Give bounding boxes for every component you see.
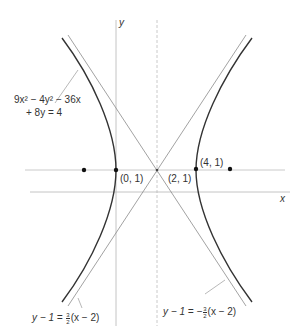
y-axis-label: y [119, 18, 124, 28]
equation-line-2: + 8y = 4 [26, 108, 62, 118]
asymptote-left-leader-line [78, 298, 82, 308]
asymptote-positive-fraction: 32 [66, 312, 69, 325]
vertex-left-label: (0, 1) [120, 174, 143, 184]
focus-left [82, 168, 86, 172]
x-axis-label: x [280, 194, 285, 204]
asymptote-negative-lhs: y − 1 = − [163, 306, 202, 317]
hyperbola-diagram [0, 0, 300, 336]
vertex-right-label: (4, 1) [200, 158, 223, 168]
vertex-right [194, 167, 198, 171]
asymptote-right-leader-line [205, 280, 225, 294]
asymptote-negative-fraction: 32 [203, 306, 206, 319]
asymptote-negative-rhs: (x − 2) [208, 306, 237, 317]
focus-right [228, 167, 232, 171]
asymptote-positive-rhs: (x − 2) [71, 312, 100, 323]
vertex-left [114, 168, 118, 172]
asymptote-negative-label: y − 1 = −32(x − 2) [163, 306, 236, 319]
center-point [156, 169, 159, 172]
center-label: (2, 1) [168, 174, 191, 184]
asymptote-positive-lhs: y − 1 = [32, 312, 65, 323]
equation-line-1: 9x² − 4y² − 36x [14, 95, 81, 105]
asymptote-positive-label: y − 1 = 32(x − 2) [32, 312, 99, 325]
